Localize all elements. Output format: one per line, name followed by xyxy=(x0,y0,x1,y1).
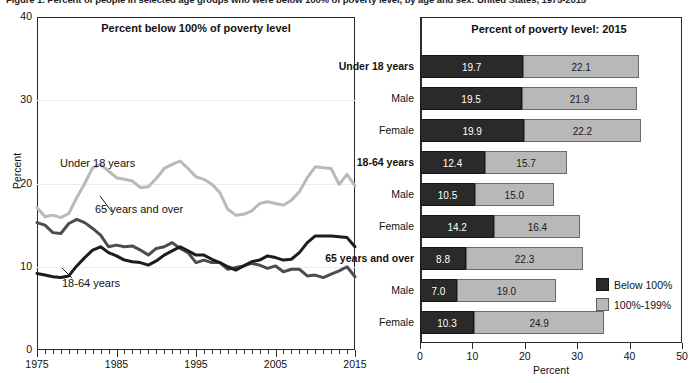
x-tick-mark xyxy=(260,350,261,354)
bar-segment-100-199[interactable]: 24.9 xyxy=(474,311,604,334)
x-tick-mark xyxy=(156,350,157,354)
bar-chart-row[interactable]: Male19.521.9 xyxy=(420,87,637,110)
x-tick-mark xyxy=(77,350,78,354)
bar-x-tick-label: 0 xyxy=(405,350,435,362)
bar-segment-below-100[interactable]: 19.5 xyxy=(420,87,522,110)
bar-segment-below-100[interactable]: 8.8 xyxy=(420,247,466,270)
x-tick-mark xyxy=(93,350,94,354)
bar-category-label: Male xyxy=(264,183,414,206)
x-tick-mark xyxy=(117,350,118,357)
x-tick-mark xyxy=(61,350,62,354)
series-label-18-64: 18-64 years xyxy=(62,277,120,289)
x-tick-mark xyxy=(252,350,253,354)
bar-segment-below-100[interactable]: 10.3 xyxy=(420,311,474,334)
x-tick-mark xyxy=(315,350,316,354)
x-tick-mark xyxy=(180,350,181,354)
x-tick-mark xyxy=(244,350,245,354)
bar-x-tick-mark xyxy=(525,343,526,349)
x-tick-mark xyxy=(220,350,221,354)
x-tick-mark xyxy=(109,350,110,354)
bar-chart-row[interactable]: 65 years and over8.822.3 xyxy=(420,247,583,270)
bar-chart-row[interactable]: Under 18 years19.722.1 xyxy=(420,55,639,78)
x-tick-mark xyxy=(268,350,269,354)
x-tick-mark xyxy=(140,350,141,354)
x-tick-mark xyxy=(124,350,125,354)
bar-segment-100-199[interactable]: 15.0 xyxy=(475,183,554,206)
bar-segment-below-100[interactable]: 7.0 xyxy=(420,279,457,302)
x-tick-mark xyxy=(69,350,70,354)
x-tick-mark xyxy=(204,350,205,354)
bar-chart-row[interactable]: Male7.019.0 xyxy=(420,279,556,302)
bar-x-tick-mark xyxy=(472,343,473,349)
bar-category-label: Female xyxy=(264,119,414,142)
x-tick-mark xyxy=(172,350,173,354)
y-tick-label: 0 xyxy=(0,343,32,355)
bar-segment-below-100[interactable]: 10.5 xyxy=(420,183,475,206)
bar-category-label: Under 18 years xyxy=(264,55,414,78)
x-tick-mark xyxy=(299,350,300,354)
y-tick-label: 40 xyxy=(0,10,32,22)
bar-segment-100-199[interactable]: 21.9 xyxy=(522,87,637,110)
x-tick-mark xyxy=(148,350,149,354)
legend-item-below-100: Below 100% xyxy=(596,276,672,293)
bar-category-label: Female xyxy=(264,215,414,238)
legend-swatch-below-100-icon xyxy=(596,278,609,291)
bar-segment-below-100[interactable]: 19.7 xyxy=(420,55,523,78)
x-tick-label: 1975 xyxy=(15,358,59,370)
x-tick-label: 1985 xyxy=(95,358,139,370)
bar-chart-panel: Percent of poverty level: 2015 Under 18 … xyxy=(360,0,682,383)
x-tick-mark xyxy=(132,350,133,354)
x-tick-mark xyxy=(53,350,54,354)
bar-chart-row[interactable]: Female14.216.4 xyxy=(420,215,580,238)
line-chart-title: Percent below 100% of poverty level xyxy=(37,22,355,34)
bar-x-tick-label: 40 xyxy=(615,350,645,362)
x-tick-mark xyxy=(188,350,189,354)
x-tick-mark xyxy=(339,350,340,354)
bar-segment-100-199[interactable]: 19.0 xyxy=(457,279,557,302)
bar-chart-row[interactable]: Female10.324.9 xyxy=(420,311,604,334)
y-tick-label: 20 xyxy=(0,177,32,189)
x-tick-mark xyxy=(228,350,229,354)
x-tick-mark xyxy=(85,350,86,354)
bar-category-label: 65 years and over xyxy=(264,247,414,270)
x-tick-mark xyxy=(236,350,237,354)
bar-segment-100-199[interactable]: 15.7 xyxy=(485,151,567,174)
bar-x-tick-mark xyxy=(630,343,631,349)
bar-x-tick-mark xyxy=(682,343,683,349)
bar-segment-100-199[interactable]: 22.2 xyxy=(524,119,640,142)
bar-x-tick-label: 30 xyxy=(562,350,592,362)
bar-segment-100-199[interactable]: 22.3 xyxy=(466,247,583,270)
x-tick-mark xyxy=(331,350,332,354)
x-tick-label: 2005 xyxy=(254,358,298,370)
bar-x-tick-label: 50 xyxy=(667,350,693,362)
bar-chart-row[interactable]: Female19.922.2 xyxy=(420,119,641,142)
bar-x-tick-mark xyxy=(420,343,421,349)
legend-label-below-100: Below 100% xyxy=(614,279,672,291)
bar-segment-below-100[interactable]: 12.4 xyxy=(420,151,485,174)
x-tick-mark xyxy=(212,350,213,354)
line-chart-y-axis-label: Percent xyxy=(11,136,23,206)
y-tick-label: 30 xyxy=(0,93,32,105)
bar-chart-row[interactable]: Male10.515.0 xyxy=(420,183,554,206)
bar-category-label: 18-64 years xyxy=(264,151,414,174)
y-tick-label: 10 xyxy=(0,260,32,272)
x-tick-mark xyxy=(101,350,102,354)
legend-item-100-199: 100%-199% xyxy=(596,296,672,313)
x-tick-mark xyxy=(196,350,197,357)
bar-category-label: Female xyxy=(264,311,414,334)
bar-category-label: Male xyxy=(264,279,414,302)
x-tick-mark xyxy=(355,350,356,357)
x-tick-mark xyxy=(45,350,46,354)
bar-segment-100-199[interactable]: 22.1 xyxy=(523,55,639,78)
legend-label-100-199: 100%-199% xyxy=(614,299,671,311)
bar-segment-below-100[interactable]: 14.2 xyxy=(420,215,494,238)
series-label-under18: Under 18 years xyxy=(60,157,135,169)
bar-chart-title: Percent of poverty level: 2015 xyxy=(420,23,678,35)
x-tick-mark xyxy=(307,350,308,354)
bar-chart-legend: Below 100% 100%-199% xyxy=(596,276,672,316)
bar-segment-100-199[interactable]: 16.4 xyxy=(494,215,580,238)
x-tick-mark xyxy=(276,350,277,357)
x-tick-mark xyxy=(283,350,284,354)
bar-chart-row[interactable]: 18-64 years12.415.7 xyxy=(420,151,567,174)
bar-segment-below-100[interactable]: 19.9 xyxy=(420,119,524,142)
